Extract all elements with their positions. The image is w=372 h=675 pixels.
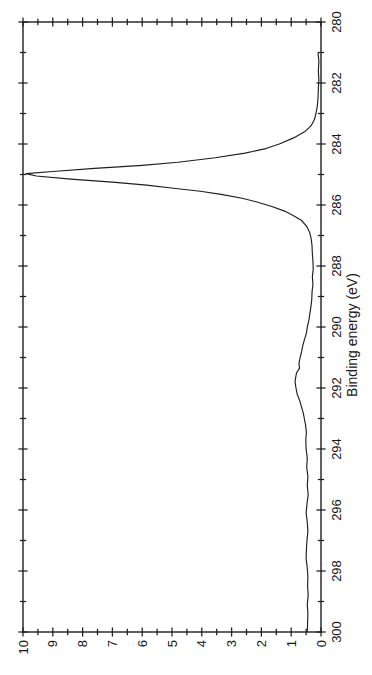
y-tick-label: 6 [135,640,150,647]
x-axis-title: Binding energy (eV) [344,273,360,397]
y-tick-label: 7 [105,640,120,647]
spectrum-chart: 2802822842862882902922942962983000123456… [0,0,372,675]
figure-page: 2802822842862882902922942962983000123456… [0,0,372,675]
y-tick-label: 1 [284,640,299,647]
rotated-chart-container: 2802822842862882902922942962983000123456… [0,0,372,675]
x-tick-label: 282 [329,72,344,94]
y-tick-label: 10 [16,640,31,654]
x-tick-label: 292 [329,377,344,399]
x-tick-label: 288 [329,255,344,277]
x-tick-label: 296 [329,499,344,521]
plot-frame [23,22,321,632]
x-tick-label: 290 [329,316,344,338]
x-tick-label: 300 [329,621,344,643]
y-tick-label: 2 [254,640,269,647]
y-tick-label: 5 [165,640,180,647]
x-tick-label: 284 [329,133,344,155]
x-tick-label: 294 [329,438,344,460]
y-tick-label: 3 [224,640,239,647]
y-tick-label: 0 [314,640,329,647]
axis-ticks [18,17,325,636]
x-tick-label: 280 [329,11,344,33]
x-tick-label: 298 [329,560,344,582]
y-tick-label: 8 [75,640,90,647]
spectrum-curve [26,53,319,633]
y-tick-label: 9 [45,640,60,647]
x-tick-label: 286 [329,194,344,216]
axis-tick-labels: 2802822842862882902922942962983000123456… [16,11,344,654]
y-tick-label: 4 [194,640,209,647]
